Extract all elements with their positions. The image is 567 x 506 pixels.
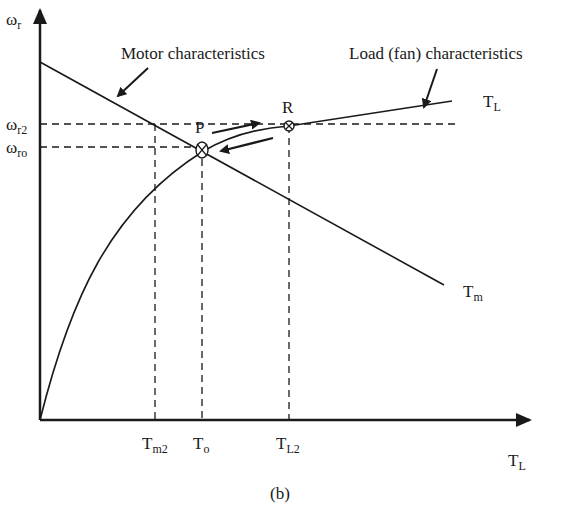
figure-caption: (b) [270, 484, 290, 503]
load-characteristics-label: Load (fan) characteristics [349, 44, 523, 63]
y-axis-label: ωr [6, 10, 21, 32]
x-tick-tl2: TL2 [276, 434, 300, 456]
motor-characteristic-line [40, 62, 444, 285]
y-tick-wr2: ωr2 [6, 115, 27, 137]
dashed-guides [40, 124, 458, 420]
x-axis-label: TL [508, 451, 526, 473]
tm-curve-label: Tm [463, 282, 483, 304]
point-p-label: P [195, 118, 204, 137]
motor-characteristics-label: Motor characteristics [121, 44, 265, 63]
load-pointer-arrow [424, 69, 437, 107]
point-p-marker [196, 142, 208, 158]
arrow-r-to-p [221, 138, 273, 151]
y-tick-wro: ωro [6, 138, 27, 160]
load-characteristic-curve [40, 101, 452, 420]
x-tick-to: To [193, 434, 209, 456]
point-r-marker [284, 121, 294, 131]
motor-pointer-arrow [118, 68, 148, 96]
tl-curve-label: TL [483, 92, 501, 114]
x-tick-tm2: Tm2 [142, 434, 168, 456]
point-r-label: R [282, 98, 294, 117]
torque-speed-diagram: ωr TL ωr2 ωro Tm2 To TL2 Motor character… [0, 0, 567, 506]
